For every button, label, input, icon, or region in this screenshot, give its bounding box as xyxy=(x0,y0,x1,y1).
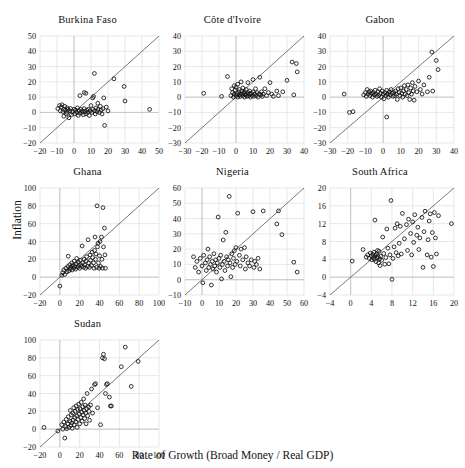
svg-text:0: 0 xyxy=(381,147,385,156)
svg-text:8: 8 xyxy=(322,238,326,247)
svg-text:60: 60 xyxy=(115,299,123,308)
svg-text:0: 0 xyxy=(234,147,238,156)
svg-text:40: 40 xyxy=(28,238,36,247)
svg-text:−30: −30 xyxy=(179,147,192,156)
panel-title: Gabon xyxy=(300,14,460,25)
svg-text:8: 8 xyxy=(390,299,394,308)
svg-text:−10: −10 xyxy=(168,108,181,117)
svg-text:60: 60 xyxy=(28,372,36,381)
svg-text:4: 4 xyxy=(322,255,326,264)
svg-text:0: 0 xyxy=(32,425,36,434)
panel-title: Ghana xyxy=(10,166,165,177)
svg-text:60: 60 xyxy=(173,184,181,193)
svg-text:20: 20 xyxy=(104,147,112,156)
svg-text:40: 40 xyxy=(28,47,36,56)
plot-area: −30−20−10010203040−30−20−10010203040 xyxy=(155,30,310,159)
svg-text:80: 80 xyxy=(28,354,36,363)
panel-title: Côte d'Ivoire xyxy=(155,14,310,25)
y-axis-label: Inflation xyxy=(11,177,23,263)
svg-text:20: 20 xyxy=(318,63,326,72)
svg-text:0: 0 xyxy=(349,299,353,308)
plot-area: −20020406080100−20020406080100 xyxy=(10,334,165,463)
plot-area: −20020406080100−20020406080100 xyxy=(10,182,165,311)
svg-text:80: 80 xyxy=(28,202,36,211)
svg-text:20: 20 xyxy=(76,299,84,308)
svg-text:0: 0 xyxy=(32,108,36,117)
panel-title: Nigeria xyxy=(155,166,310,177)
svg-text:100: 100 xyxy=(24,336,36,345)
svg-text:10: 10 xyxy=(173,78,181,87)
panel-gabon: Gabon −30−20−10010203040−30−20−100102030… xyxy=(300,14,460,159)
svg-text:20: 20 xyxy=(28,407,36,416)
svg-text:−10: −10 xyxy=(23,124,36,133)
scatter-plot-matrix: Burkina Faso −20−1001020304050−20−100102… xyxy=(0,0,465,468)
svg-text:30: 30 xyxy=(28,63,36,72)
svg-text:40: 40 xyxy=(266,299,274,308)
scatter-svg: −30−20−10010203040−30−20−10010203040 xyxy=(155,30,310,159)
panel-ghana: Ghana −20020406080100−20020406080100 xyxy=(10,166,165,311)
svg-text:20: 20 xyxy=(28,78,36,87)
svg-text:30: 30 xyxy=(249,299,257,308)
plot-area: −20−1001020304050−20−1001020304050 xyxy=(10,30,165,159)
svg-text:16: 16 xyxy=(318,202,326,211)
plot-area: −100102030405060−100102030405060 xyxy=(155,182,310,311)
svg-text:40: 40 xyxy=(28,390,36,399)
svg-text:−30: −30 xyxy=(324,147,337,156)
panel-south-africa: South Africa −4048121620−4048121620 xyxy=(300,166,460,311)
panel-title: South Africa xyxy=(300,166,460,177)
scatter-svg: −20−1001020304050−20−1001020304050 xyxy=(10,30,165,159)
scatter-svg: −30−20−10010203040−30−20−10010203040 xyxy=(300,30,460,159)
svg-text:20: 20 xyxy=(173,245,181,254)
svg-text:40: 40 xyxy=(450,147,458,156)
svg-text:20: 20 xyxy=(232,299,240,308)
svg-text:60: 60 xyxy=(28,220,36,229)
panel-cote-divoire: Côte d'Ivoire −30−20−10010203040−30−20−1… xyxy=(155,14,310,159)
svg-text:−4: −4 xyxy=(326,299,335,308)
svg-text:16: 16 xyxy=(429,299,437,308)
svg-text:20: 20 xyxy=(173,63,181,72)
panel-sudan: Sudan −20020406080100−20020406080100 xyxy=(10,318,165,463)
svg-text:30: 30 xyxy=(173,47,181,56)
svg-text:−20: −20 xyxy=(168,124,181,133)
svg-text:50: 50 xyxy=(173,199,181,208)
svg-text:−20: −20 xyxy=(34,299,47,308)
svg-text:4: 4 xyxy=(369,299,373,308)
svg-text:30: 30 xyxy=(283,147,291,156)
svg-text:40: 40 xyxy=(173,215,181,224)
svg-text:30: 30 xyxy=(318,47,326,56)
svg-text:50: 50 xyxy=(28,32,36,41)
svg-text:10: 10 xyxy=(87,147,95,156)
svg-text:−20: −20 xyxy=(341,147,354,156)
svg-text:50: 50 xyxy=(283,299,291,308)
svg-text:30: 30 xyxy=(121,147,129,156)
svg-text:20: 20 xyxy=(266,147,274,156)
svg-text:−20: −20 xyxy=(313,124,326,133)
svg-text:12: 12 xyxy=(409,299,417,308)
panel-title: Burkina Faso xyxy=(10,14,165,25)
svg-text:−10: −10 xyxy=(51,147,64,156)
svg-text:−20: −20 xyxy=(34,147,47,156)
scatter-svg: −20020406080100−20020406080100 xyxy=(10,182,165,311)
svg-text:20: 20 xyxy=(28,255,36,264)
svg-text:10: 10 xyxy=(318,78,326,87)
panel-nigeria: Nigeria −100102030405060−100102030405060 xyxy=(155,166,310,311)
svg-text:0: 0 xyxy=(177,93,181,102)
svg-text:0: 0 xyxy=(32,273,36,282)
svg-text:0: 0 xyxy=(322,93,326,102)
panel-burkina-faso: Burkina Faso −20−1001020304050−20−100102… xyxy=(10,14,165,159)
scatter-svg: −100102030405060−100102030405060 xyxy=(155,182,310,311)
svg-text:0: 0 xyxy=(72,147,76,156)
svg-text:30: 30 xyxy=(432,147,440,156)
svg-text:10: 10 xyxy=(215,299,223,308)
svg-text:20: 20 xyxy=(450,299,458,308)
plot-area: −4048121620−4048121620 xyxy=(300,182,460,311)
svg-text:−10: −10 xyxy=(213,147,226,156)
svg-text:10: 10 xyxy=(397,147,405,156)
plot-area: −30−20−10010203040−30−20−10010203040 xyxy=(300,30,460,159)
svg-text:0: 0 xyxy=(322,273,326,282)
svg-text:−20: −20 xyxy=(196,147,209,156)
svg-text:100: 100 xyxy=(24,184,36,193)
svg-text:10: 10 xyxy=(249,147,257,156)
svg-text:10: 10 xyxy=(173,260,181,269)
panel-title: Sudan xyxy=(10,318,165,329)
